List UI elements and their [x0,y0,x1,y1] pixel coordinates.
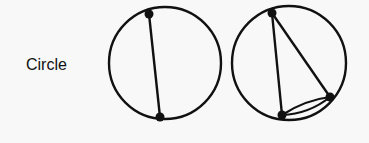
graph-node [268,9,277,18]
graph-double-edge [282,97,330,115]
circle-graph-2 [232,6,346,120]
graph-double-edge [282,97,330,115]
graph-edge [149,14,160,117]
graph-edge [272,13,282,115]
graph-node [145,10,154,19]
graph-node [326,93,335,102]
circle-graph-1 [109,7,221,122]
circle-graphs-diagram [0,0,369,143]
graph-node [156,113,165,122]
graph-node [278,111,287,120]
circle-outline [109,7,221,119]
graph-edge [272,13,330,97]
circle-outline [232,6,346,120]
